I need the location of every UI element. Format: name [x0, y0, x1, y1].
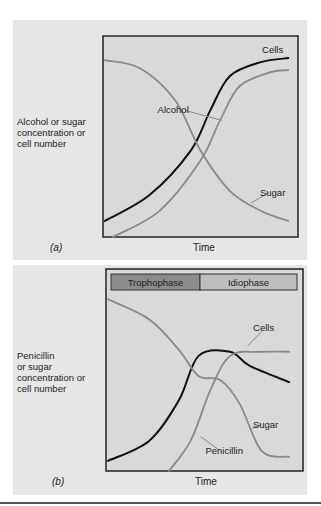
- curve-label-penicillin: Penicillin: [205, 445, 243, 456]
- chart-b: TrophophaseIdiophaseCellsSugarPenicillin: [106, 269, 303, 471]
- chart-a: CellsAlcoholSugar: [103, 36, 298, 237]
- plots: CellsAlcoholSugar TrophophaseIdiophaseCe…: [0, 0, 321, 506]
- plot-frame: [106, 269, 303, 471]
- phase-label: Trophophase: [128, 277, 184, 288]
- curve-label-cells: Cells: [262, 44, 283, 55]
- divider-rule: [0, 502, 321, 504]
- curve-label-sugar: Sugar: [253, 419, 278, 430]
- curve-label-cells: Cells: [253, 322, 274, 333]
- phase-label: Idiophase: [228, 277, 269, 288]
- curve-label-sugar: Sugar: [260, 187, 285, 198]
- curve-label-alcohol: Alcohol: [158, 104, 189, 115]
